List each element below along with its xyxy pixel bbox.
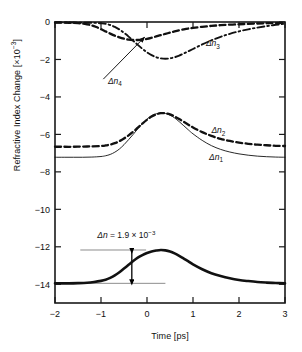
curve-label-n1: Δn1 (208, 152, 223, 164)
figure-container: Refractive Index Change [×10−3] Time [ps… (0, 0, 302, 352)
x-tick-label: 3 (282, 309, 287, 319)
curve-label-n2: Δn2 (210, 125, 225, 137)
tick-labels: 0−2−4−6−8−10−12−14−2−10123 (35, 17, 288, 319)
plot-area: 0−2−4−6−8−10−12−14−2−10123 Δn = 1.9 × 10… (0, 0, 302, 352)
y-tick-label: −14 (35, 280, 50, 290)
plot-frame (55, 22, 285, 303)
y-tick-label: −6 (40, 130, 50, 140)
curve-n4 (55, 23, 285, 40)
curve-n2 (55, 113, 285, 147)
data-curves (55, 23, 285, 284)
y-tick-label: −10 (35, 205, 50, 215)
y-tick-label: −8 (40, 167, 50, 177)
delta-n4-pointer-arrow (103, 37, 144, 79)
axes-frame (55, 22, 285, 303)
y-tick-label: −12 (35, 242, 50, 252)
x-tick-label: 1 (190, 309, 195, 319)
annotations-layer: Δn = 1.9 × 10−3 (72, 37, 165, 283)
x-tick-label: −2 (50, 309, 60, 319)
curve-n1 (55, 113, 285, 157)
y-tick-label: −4 (40, 92, 50, 102)
x-tick-label: 2 (236, 309, 241, 319)
curve-nbottom (55, 250, 285, 283)
curve-label-n4: Δn4 (107, 76, 122, 88)
x-tick-label: 0 (144, 309, 149, 319)
delta-n-annotation-text: Δn = 1.9 × 10−3 (96, 229, 156, 240)
y-tick-label: 0 (45, 17, 50, 27)
curve-n3 (55, 23, 285, 59)
axis-ticks (55, 22, 285, 303)
curve-label-n3: Δn3 (205, 38, 220, 50)
x-tick-label: −1 (96, 309, 106, 319)
y-tick-label: −2 (40, 55, 50, 65)
